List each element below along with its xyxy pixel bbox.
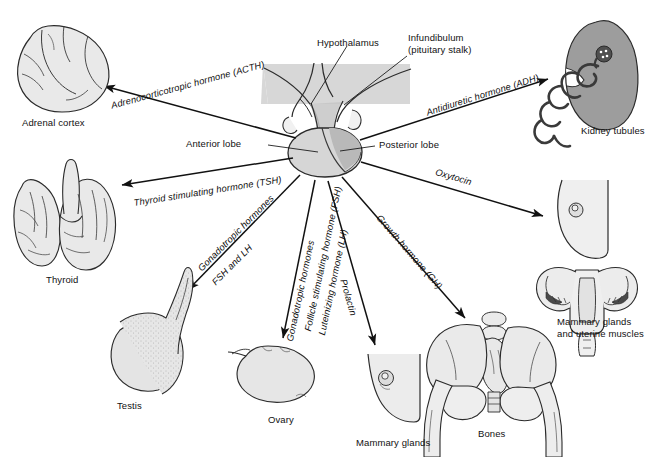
organ-label-mammary-glands: Mammary glands	[356, 437, 430, 449]
organ-label-testis: Testis	[117, 400, 142, 412]
organ-label-thyroid: Thyroid	[46, 274, 78, 286]
diagram-canvas: Hypothalamus Infundibulum(pituitary stal…	[0, 0, 651, 457]
organ-label-ovary: Ovary	[268, 414, 294, 426]
callout-anterior-lobe: Anterior lobe	[186, 138, 241, 150]
adrenal-cortex-illustration	[18, 26, 109, 112]
callout-posterior-lobe: Posterior lobe	[379, 139, 439, 151]
thyroid-illustration	[14, 160, 116, 271]
organ-label-mammary-uterine: Mammary glands and uterine muscles	[557, 316, 644, 340]
mammary-gland-illustration	[368, 354, 420, 422]
organ-label-adrenal-cortex: Adrenal cortex	[22, 117, 85, 129]
callout-infundibulum-line1: Infundibulum	[408, 32, 464, 43]
stalk-loop-right	[348, 110, 361, 129]
callout-infundibulum: Infundibulum(pituitary stalk)	[408, 32, 471, 57]
testis-illustration	[111, 268, 193, 395]
callout-hypothalamus: Hypothalamus	[317, 37, 379, 49]
organ-label-kidney-tubules: Kidney tubules	[581, 125, 645, 137]
brain-base-band	[263, 64, 410, 104]
callout-infundibulum-line2: (pituitary stalk)	[408, 44, 471, 55]
arrow-oxytocin	[361, 162, 543, 216]
organ-label-bones: Bones	[478, 428, 505, 440]
ovary-illustration	[228, 346, 314, 402]
stalk-loop-left	[283, 117, 297, 134]
